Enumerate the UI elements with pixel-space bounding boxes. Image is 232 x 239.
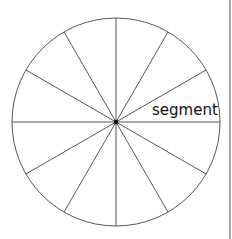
radius-line <box>116 122 168 212</box>
radius-line <box>26 70 116 122</box>
right-border-line <box>229 0 231 239</box>
radius-line <box>116 122 206 174</box>
segment-diagram: segment <box>0 0 232 239</box>
radius-line <box>64 32 116 122</box>
radius-line <box>64 122 116 212</box>
radius-line <box>26 122 116 174</box>
circle-figure: segment <box>0 0 232 239</box>
center-point <box>114 120 118 124</box>
segment-label: segment <box>152 101 218 119</box>
